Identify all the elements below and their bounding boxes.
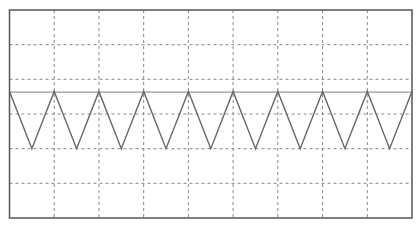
grid-lines <box>10 10 413 218</box>
triangle-wave-trace <box>10 92 413 149</box>
oscilloscope-chart <box>0 0 420 226</box>
